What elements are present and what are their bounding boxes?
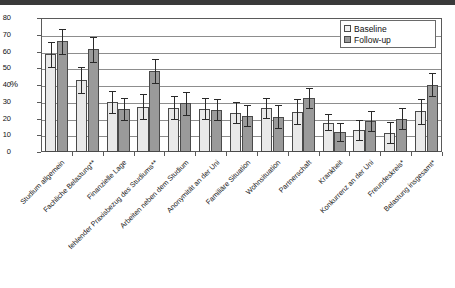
error-bar-cap-upper [356,120,363,121]
y-axis-tick-label: 20 [0,115,11,123]
bar-group [103,18,134,152]
error-bar-cap-upper [48,42,55,43]
y-axis-tick-label: 30 [0,98,11,106]
bar-group [257,18,288,152]
y-axis-tick-label: 50 [0,64,11,72]
scan-top-band [0,0,455,5]
error-bar-line [174,96,175,119]
y-axis-tick-label: 80 [0,14,11,22]
error-bar-line [247,105,248,126]
error-bar-cap-lower [263,118,270,119]
error-bar-cap-upper [121,98,128,99]
error-bar-line [112,91,113,113]
bar-group [195,18,226,152]
error-bar-cap-lower [202,119,209,120]
error-bar-cap-upper [325,114,332,115]
error-bar-line [93,37,94,61]
legend-swatch-followup-icon [344,36,351,43]
error-bar-cap-upper [171,96,178,97]
error-bar-line [278,105,279,128]
bar-followup [57,41,68,152]
chart-legend: Baseline Follow-up [340,20,436,48]
error-bar-cap-lower [78,93,85,94]
error-bar-cap-upper [337,123,344,124]
error-bar-cap-upper [294,99,301,100]
error-bar-cap-upper [59,29,66,30]
error-bar-cap-lower [152,83,159,84]
y-axis-tick-label: 70 [0,31,11,39]
error-bar-cap-upper [275,105,282,106]
error-bar-line [359,120,360,140]
error-bar-line [186,92,187,115]
error-bar-line [432,73,433,96]
error-bar-line [205,98,206,119]
error-bar-cap-upper [263,98,270,99]
error-bar-cap-upper [387,122,394,123]
bar-group [164,18,195,152]
bar-group [226,18,257,152]
error-bar-cap-lower [294,124,301,125]
bar-group [134,18,165,152]
error-bar-line [390,122,391,143]
error-bar-cap-lower [140,119,147,120]
error-bar-cap-lower [356,140,363,141]
error-bar-line [217,99,218,120]
legend-item-baseline: Baseline [344,23,432,34]
error-bar-line [340,123,341,141]
error-bar-cap-upper [418,99,425,100]
error-bar-cap-lower [233,123,240,124]
error-bar-cap-lower [109,113,116,114]
error-bar-line [81,67,82,92]
error-bar-cap-lower [306,108,313,109]
y-axis-tick-label: 40 [0,81,11,89]
error-bar-cap-lower [337,141,344,142]
error-bar-cap-lower [429,96,436,97]
y-axis-tick-label: 10 [0,131,11,139]
error-bar-cap-lower [171,119,178,120]
error-bar-cap-upper [140,94,147,95]
chart-figure: % 01020304050607080 Baseline Follow-up S… [0,0,455,288]
bar-group [288,18,319,152]
error-bar-cap-upper [152,59,159,60]
error-bar-cap-upper [109,91,116,92]
error-bar-cap-lower [48,67,55,68]
bar-group [72,18,103,152]
error-bar-cap-upper [214,99,221,100]
bar-baseline [45,54,56,152]
error-bar-cap-upper [202,98,209,99]
error-bar-line [51,42,52,66]
error-bar-line [266,98,267,117]
error-bar-cap-lower [399,129,406,130]
error-bar-cap-lower [275,128,282,129]
error-bar-cap-upper [183,92,190,93]
error-bar-cap-upper [244,105,251,106]
error-bar-cap-upper [429,73,436,74]
x-axis-label-group: Studium allgemeinFachliche Belastung**Fi… [0,152,455,288]
x-axis-category-label: Konkurrenz an der Uni [318,158,375,215]
bar-group [41,18,72,152]
error-bar-cap-lower [214,120,221,121]
y-axis-title: % [10,79,18,89]
error-bar-line [421,99,422,123]
error-bar-cap-upper [306,88,313,89]
legend-label-followup: Follow-up [354,35,391,45]
error-bar-cap-upper [78,67,85,68]
error-bar-cap-lower [59,54,66,55]
error-bar-cap-lower [244,126,251,127]
error-bar-cap-lower [121,120,128,121]
error-bar-line [297,99,298,124]
error-bar-cap-upper [368,111,375,112]
error-bar-line [62,29,63,54]
error-bar-line [328,114,329,130]
error-bar-cap-lower [387,143,394,144]
error-bar-line [402,108,403,130]
x-axis-category-label: Krankheit [317,158,345,186]
error-bar-line [371,111,372,131]
legend-item-followup: Follow-up [344,34,432,45]
error-bar-cap-upper [90,37,97,38]
error-bar-line [143,94,144,119]
error-bar-cap-lower [418,124,425,125]
error-bar-cap-upper [399,108,406,109]
x-axis-category-label: Anonymität an der Uni [164,158,221,215]
error-bar-cap-upper [233,102,240,103]
